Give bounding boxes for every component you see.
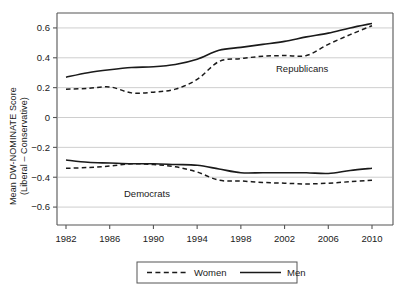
data-series-group — [66, 23, 372, 183]
legend-label-women: Women — [194, 267, 227, 278]
x-tick-label: 2006 — [318, 233, 339, 244]
y-tick-label: 0.2 — [37, 82, 50, 93]
y-tick-label: −0.2 — [31, 142, 50, 153]
plot-frame — [57, 13, 393, 225]
x-tick-label: 1982 — [55, 233, 76, 244]
x-tick-label: 1990 — [143, 233, 164, 244]
chart-figure: Mean DW-NOMINATE Score (Liberal – Conser… — [0, 0, 411, 288]
x-tick-label: 1994 — [187, 233, 208, 244]
series-line-republicans-women — [66, 26, 372, 94]
x-axis-ticks: 19821986199019941998200220062010 — [55, 225, 382, 244]
y-tick-label: 0.6 — [37, 22, 50, 33]
annotation-republicans: Republicans — [276, 63, 329, 74]
y-tick-label: 0.4 — [37, 52, 50, 63]
x-tick-label: 1986 — [99, 233, 120, 244]
y-tick-label: −0.6 — [31, 201, 50, 212]
legend-label-men: Men — [287, 267, 305, 278]
y-tick-label: −0.4 — [31, 172, 50, 183]
y-axis-ticks: 0.60.40.20−0.2−0.4−0.6 — [31, 22, 57, 212]
chart-svg: 0.60.40.20−0.2−0.4−0.6 19821986199019941… — [0, 0, 411, 288]
legend: Women Men — [137, 262, 305, 283]
y-tick-label: 0 — [45, 112, 50, 123]
x-tick-label: 2010 — [361, 233, 382, 244]
x-tick-label: 1998 — [230, 233, 251, 244]
gridlines — [58, 28, 392, 207]
annotation-democrats: Democrats — [124, 188, 170, 199]
series-line-democrats-men — [66, 160, 372, 174]
x-tick-label: 2002 — [274, 233, 295, 244]
